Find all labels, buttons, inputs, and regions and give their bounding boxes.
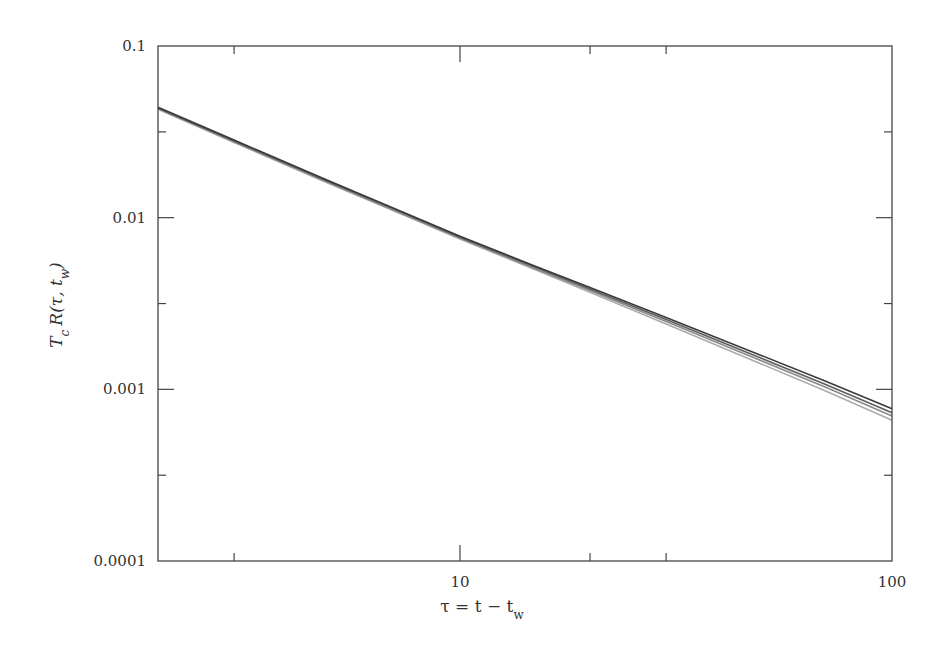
- series-line-curve-1: [158, 107, 892, 409]
- y-tick-label: 0.01: [113, 209, 146, 227]
- x-axis-label: τ = t − tw: [440, 596, 524, 622]
- y-tick-label: 0.1: [122, 37, 146, 55]
- ticks: [158, 46, 892, 561]
- plot-frame: [158, 46, 892, 561]
- chart: 101000.10.010.0010.0001 τ = t − tw TcR(τ…: [0, 0, 946, 649]
- series-line-curve-2: [158, 108, 892, 413]
- y-tick-label: 0.0001: [94, 552, 147, 570]
- data-series: [158, 107, 892, 420]
- tick-labels: 101000.10.010.0010.0001: [94, 37, 907, 591]
- y-axis-label: TcR(τ, tw): [46, 262, 72, 347]
- y-tick-label: 0.001: [103, 380, 146, 398]
- x-tick-label: 10: [450, 573, 469, 591]
- x-tick-label: 100: [878, 573, 907, 591]
